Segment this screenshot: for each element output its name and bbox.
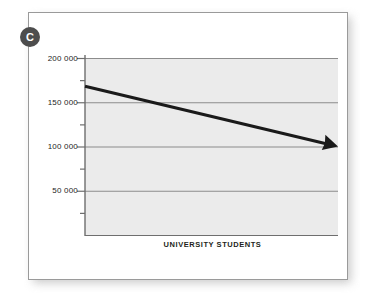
y-tick-label-50000: 50 000 [30,186,78,195]
y-tick-label-200000: 200 000 [30,54,78,63]
figure-container: C 200 000 150 000 100 000 50 000 UNI [0,0,371,297]
y-tick-label-150000: 150 000 [30,98,78,107]
x-axis-title: UNIVERSITY STUDENTS [85,240,340,249]
y-tick-label-100000: 100 000 [30,142,78,151]
panel-label-badge: C [20,27,40,47]
